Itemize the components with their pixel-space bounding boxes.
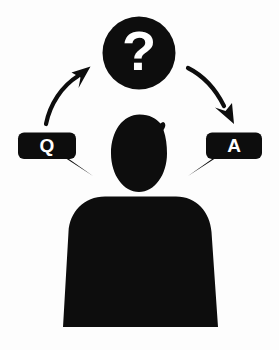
qa-diagram: ? Q A [0, 0, 279, 350]
arrow-head-to-answer [188, 68, 234, 124]
person-head [111, 115, 167, 193]
arrow-question-to-head [46, 67, 91, 125]
person-body [63, 197, 218, 328]
q-speech-bubble[interactable]: Q [18, 133, 93, 177]
person-silhouette [63, 115, 218, 328]
arrow-out-shaft [188, 68, 224, 106]
qa-illustration: ? Q A [0, 0, 279, 350]
a-bubble-label: A [227, 135, 241, 156]
arrow-in-shaft [46, 76, 78, 124]
question-mark-circle: ? [103, 17, 176, 90]
a-speech-bubble[interactable]: A [188, 133, 262, 177]
q-bubble-label: Q [40, 135, 55, 156]
question-mark-glyph: ? [122, 19, 156, 82]
